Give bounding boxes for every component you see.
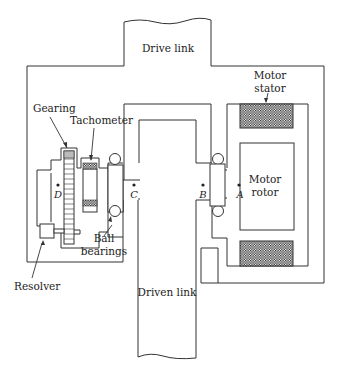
motor-rotor-label-1: Motor bbox=[249, 173, 283, 185]
point-c-label: C bbox=[130, 189, 138, 200]
tachometer-label: Tachometer bbox=[70, 114, 134, 126]
driven-link-outline bbox=[138, 200, 196, 359]
ball-bearing-top-left bbox=[110, 154, 121, 165]
ball-bearing-top-right bbox=[213, 154, 224, 165]
gearing-label: Gearing bbox=[33, 102, 76, 114]
point-a-label: A bbox=[235, 189, 243, 200]
motor-stator-top bbox=[240, 104, 293, 128]
motor-rotor-label-2: rotor bbox=[252, 186, 280, 198]
point-d-label: D bbox=[53, 189, 62, 200]
motor-stator-label-1: Motor bbox=[254, 69, 288, 81]
driven-link-label: Driven link bbox=[138, 286, 198, 298]
point-b-label: B bbox=[198, 189, 206, 200]
joint-diagram: Drive link Motor stator Motor rotor Gear… bbox=[0, 0, 340, 375]
motor-stator-bottom bbox=[240, 241, 293, 266]
ball-bearing-bottom-left bbox=[110, 206, 121, 217]
resolver-box bbox=[40, 224, 54, 238]
ball-bearings-label-1: Ball bbox=[94, 232, 115, 244]
motor-stator-label-2: stator bbox=[254, 82, 286, 94]
ball-bearing-bottom-right bbox=[213, 206, 224, 217]
ball-bearings-label-2: bearings bbox=[81, 245, 127, 257]
resolver-label: Resolver bbox=[14, 280, 61, 292]
drive-link-label: Drive link bbox=[142, 42, 195, 54]
